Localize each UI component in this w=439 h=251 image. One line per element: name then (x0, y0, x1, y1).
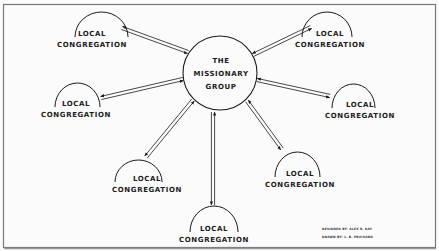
inbound-arrow (257, 78, 330, 94)
missionary-group-node: THE MISSIONARY GROUP (183, 36, 257, 110)
outbound-arrow (123, 26, 189, 50)
connector-mid-left (101, 77, 184, 99)
node-label-local: LOCAL (133, 175, 161, 183)
outbound-arrow (145, 99, 192, 156)
connector-bottom (211, 112, 214, 205)
diagram-canvas: LOCALCONGREGATIONLOCALCONGREGATIONLOCALC… (0, 0, 439, 251)
node-label-local: LOCAL (62, 100, 90, 108)
center-label-line-2: MISSIONARY (193, 70, 249, 78)
outbound-arrow (257, 82, 330, 98)
designer-credit: DESIGNED BY: ALEX R. KAY (322, 227, 373, 231)
node-label-congregation: CONGREGATION (325, 112, 395, 120)
local-congregation-bottom: LOCALCONGREGATION (179, 206, 249, 244)
outbound-arrow (101, 77, 183, 96)
node-label-congregation: CONGREGATION (112, 186, 182, 194)
local-congregation-low-left: LOCALCONGREGATION (112, 160, 182, 193)
inbound-arrow (121, 30, 187, 54)
inbound-arrow (101, 81, 183, 100)
node-label-congregation: CONGREGATION (57, 41, 127, 49)
node-label-local: LOCAL (78, 30, 106, 38)
missionary-group-diagram: LOCALCONGREGATIONLOCALCONGREGATIONLOCALC… (0, 0, 439, 251)
connector-low-left (145, 99, 194, 158)
local-congregation-mid-right: LOCALCONGREGATION (325, 84, 395, 120)
node-label-local: LOCAL (286, 170, 314, 178)
outbound-arrow (246, 102, 281, 150)
inbound-arrow (147, 101, 194, 158)
center-label-line-3: GROUP (206, 83, 237, 91)
local-congregation-top-right: LOCALCONGREGATION (295, 12, 365, 49)
local-congregation-mid-left: LOCALCONGREGATION (41, 83, 111, 119)
node-label-congregation: CONGREGATION (295, 41, 365, 49)
connector-low-right (246, 100, 284, 150)
center-label-line-1: THE (212, 57, 229, 65)
local-congregation-low-right: LOCALCONGREGATION (265, 152, 335, 189)
node-label-local: LOCAL (200, 225, 228, 233)
local-congregation-top-left: LOCALCONGREGATION (57, 12, 128, 49)
node-label-local: LOCAL (316, 30, 344, 38)
node-label-congregation: CONGREGATION (265, 181, 335, 189)
node-label-congregation: CONGREGATION (179, 236, 249, 244)
node-label-local: LOCAL (346, 101, 374, 109)
connector-top-left (121, 26, 188, 53)
inbound-arrow (248, 100, 283, 148)
connector-mid-right (257, 78, 331, 97)
credits-block: DESIGNED BY: ALEX R. KAY DRAWN BY: L. B.… (322, 227, 373, 239)
node-label-congregation: CONGREGATION (41, 111, 111, 119)
drafter-credit: DRAWN BY: L. B. PRICHARD (322, 235, 373, 239)
